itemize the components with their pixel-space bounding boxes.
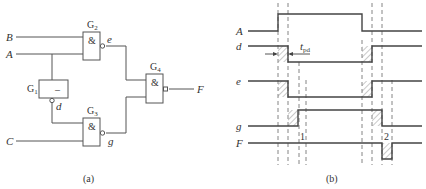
inverter-bubble-g3 — [100, 131, 104, 135]
output-f-label: F — [196, 83, 204, 95]
marker-2: 2 — [384, 131, 389, 142]
input-a-label: A — [5, 48, 13, 60]
waveform-a — [248, 14, 422, 31]
arrowhead-icon — [288, 52, 293, 56]
caption-b: (b) — [326, 173, 338, 185]
delay-hatch-d-fall — [362, 46, 372, 62]
marker-1: 1 — [300, 131, 305, 142]
waveform-g — [248, 110, 422, 126]
delay-hatch-e-fall — [362, 81, 372, 97]
signal-f-label: F — [235, 137, 243, 149]
delay-hatch-e-rise — [278, 81, 288, 97]
input-b-label: B — [6, 31, 13, 43]
signal-a-label: A — [235, 25, 243, 37]
delay-hatch-g-fall — [372, 110, 382, 126]
input-c-label: C — [6, 135, 14, 147]
g2-label: G2 — [87, 19, 98, 32]
gate-g1 — [39, 80, 68, 98]
g3-symbol: & — [88, 121, 96, 132]
wire-e — [106, 46, 146, 80]
g3-label: G3 — [87, 105, 98, 118]
g4-label: G4 — [150, 61, 161, 74]
arrowhead-icon — [273, 52, 278, 56]
inverter-bubble-g1 — [50, 98, 54, 102]
waveform-f — [248, 143, 422, 159]
glitch-hatch-f — [382, 143, 392, 159]
delay-hatch-d-rise — [278, 46, 288, 62]
net-g-label: g — [108, 135, 114, 147]
net-d-label: d — [56, 100, 62, 112]
logic-circuit: & – & & G2 G1 G3 G4 B A C F e d g (a) — [5, 19, 204, 185]
g1-symbol: – — [54, 84, 61, 95]
tpd-label: tpd — [300, 40, 311, 54]
timing-diagram: tpd A d e g F 1 2 (b) — [235, 3, 422, 185]
diagram-canvas: & – & & G2 G1 G3 G4 B A C F e d g (a) — [0, 0, 426, 189]
inverter-bubble-g2 — [100, 44, 104, 48]
waveform-e — [248, 81, 422, 97]
net-e-label: e — [107, 33, 112, 45]
g1-label: G1 — [27, 83, 38, 96]
inverter-bubble-g4 — [164, 87, 168, 91]
signal-d-label: d — [236, 40, 242, 52]
wire-g — [106, 97, 146, 133]
caption-a: (a) — [83, 173, 94, 185]
delay-hatch-g-rise — [288, 110, 298, 126]
signal-e-label: e — [236, 75, 241, 87]
g2-symbol: & — [88, 35, 96, 46]
g4-symbol: & — [151, 77, 159, 88]
signal-g-label: g — [236, 120, 242, 132]
